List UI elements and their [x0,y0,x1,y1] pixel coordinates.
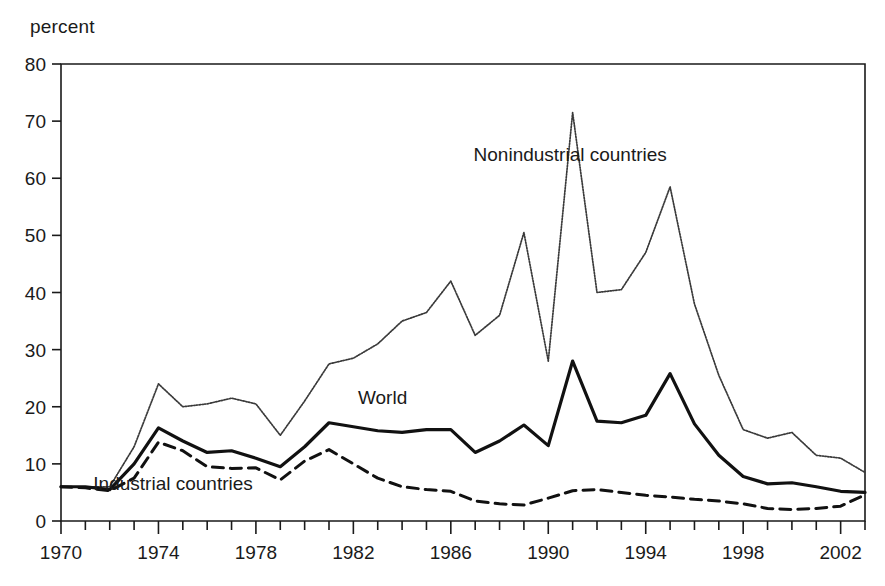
series-annotation-0: Nonindustrial countries [474,144,667,165]
series-line-0 [61,113,865,487]
y-tick-label: 70 [25,111,46,132]
y-tick-label: 40 [25,283,46,304]
y-tick-label: 10 [25,454,46,475]
series-annotation-2: Industrial countries [93,473,252,494]
x-tick-label: 1986 [430,542,472,563]
y-tick-label: 30 [25,340,46,361]
chart-figure: percent 01020304050607080 19701974197819… [0,0,885,586]
y-tick-label: 80 [25,54,46,75]
series-group [61,113,865,510]
x-tick-label: 1978 [235,542,277,563]
y-axis-tick-group: 01020304050607080 [25,54,61,532]
y-tick-label: 60 [25,168,46,189]
y-tick-label: 50 [25,225,46,246]
y-tick-label: 20 [25,397,46,418]
x-tick-label: 1998 [722,542,764,563]
series-annotation-1: World [358,387,407,408]
x-tick-label: 1990 [527,542,569,563]
y-tick-label: 0 [35,511,46,532]
x-tick-label: 1974 [137,542,180,563]
series-label-group: Nonindustrial countriesWorldIndustrial c… [93,144,666,494]
x-tick-label: 1970 [40,542,82,563]
x-tick-label: 2002 [819,542,861,563]
x-tick-label: 1994 [625,542,668,563]
x-tick-label: 1982 [332,542,374,563]
line-chart-plot: 01020304050607080 1970197419781982198619… [0,0,885,586]
x-axis-tick-group: 197019741978198219861990199419982002 [40,521,865,563]
plot-frame [61,64,865,521]
